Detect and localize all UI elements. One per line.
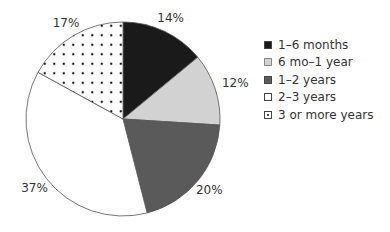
legend-swatch-dotted-icon bbox=[264, 111, 272, 119]
legend-label: 3 or more years bbox=[278, 108, 373, 122]
legend-label: 6 mo–1 year bbox=[278, 55, 353, 69]
pie-value-label: 20% bbox=[196, 183, 223, 197]
pie-slices bbox=[26, 22, 220, 216]
pie-value-label: 17% bbox=[53, 16, 80, 30]
legend-swatch-icon bbox=[264, 58, 272, 66]
pie-value-label: 12% bbox=[222, 76, 249, 90]
pie-value-label: 14% bbox=[157, 11, 184, 25]
legend-label: 2–3 years bbox=[278, 90, 336, 104]
pie-value-label: 37% bbox=[21, 181, 48, 195]
legend-item-6mo-1-year: 6 mo–1 year bbox=[264, 54, 373, 72]
legend-label: 1–6 months bbox=[278, 38, 348, 52]
legend-swatch-icon bbox=[264, 93, 272, 101]
legend-item-1-6-months: 1–6 months bbox=[264, 36, 373, 54]
legend-swatch-icon bbox=[264, 41, 272, 49]
legend-swatch-icon bbox=[264, 76, 272, 84]
legend-item-2-3-years: 2–3 years bbox=[264, 89, 373, 107]
legend-item-1-2-years: 1–2 years bbox=[264, 71, 373, 89]
legend-item-3-or-more-years: 3 or more years bbox=[264, 106, 373, 124]
legend: 1–6 months 6 mo–1 year 1–2 years 2–3 yea… bbox=[264, 36, 373, 124]
legend-label: 1–2 years bbox=[278, 73, 336, 87]
